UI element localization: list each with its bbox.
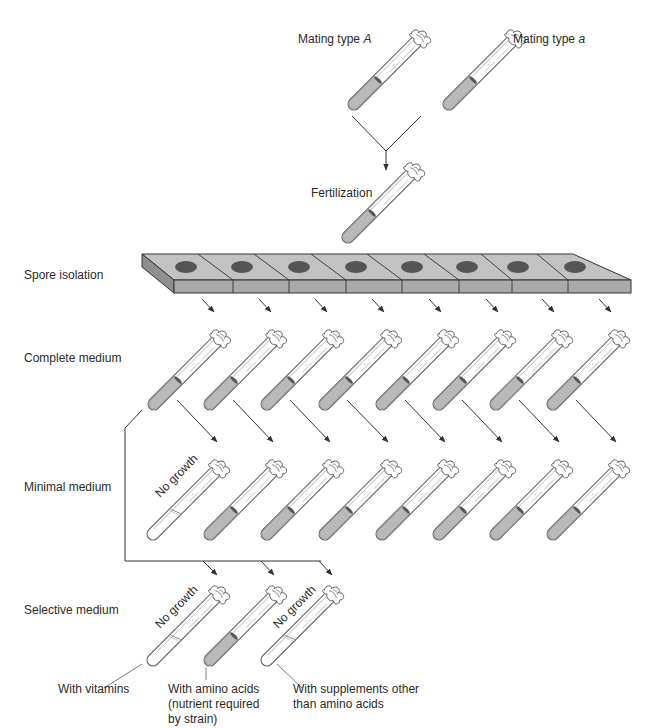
row-label-spore-isolation: Spore isolation [24, 268, 103, 282]
spore-isolation-strip [142, 254, 631, 293]
complete-medium-tubes [143, 325, 632, 415]
row-label-minimal-medium: Minimal medium [24, 480, 111, 494]
arrows-strip-to-complete [202, 299, 611, 312]
row-label-complete-medium: Complete medium [24, 351, 121, 365]
supplement-label-amino-acids: With amino acids (nutrient required by s… [168, 682, 259, 727]
diagram-canvas: Mating type A Mating type a Fertilizatio… [0, 0, 648, 728]
row-label-selective-medium: Selective medium [24, 603, 119, 617]
minimal-medium-tubes [142, 455, 632, 545]
parent-b-label: Mating type a [513, 32, 585, 47]
parent-a-label: Mating type A [298, 32, 371, 47]
fertilization-tube [337, 158, 427, 248]
supplement-label-vitamins: With vitamins [58, 682, 129, 697]
supplement-label-other: With supplements other than amino acids [293, 682, 419, 712]
cross-lines [352, 116, 421, 170]
fertilization-label: Fertilization [311, 186, 372, 201]
